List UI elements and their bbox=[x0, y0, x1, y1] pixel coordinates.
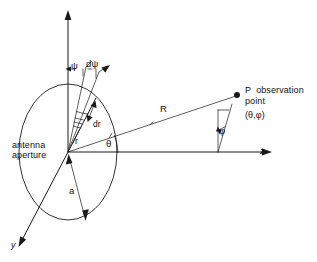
theta-label: θ bbox=[106, 139, 111, 150]
aperture-caption-line2: aperture bbox=[12, 150, 46, 160]
psi-label: ψ bbox=[71, 61, 78, 72]
r-label: r bbox=[75, 137, 78, 147]
vertical-axis bbox=[65, 10, 72, 152]
y-axis-label: y bbox=[11, 240, 16, 250]
aperture-caption-line1: antenna bbox=[12, 140, 45, 150]
d-psi-label: dψ bbox=[86, 59, 98, 70]
aperture-radius-label: a bbox=[69, 186, 74, 197]
observation-angles-label: (θ,φ) bbox=[245, 110, 265, 120]
antenna-aperture-figure: ψ dψ dr r θ φ a R z y antenna aperture P… bbox=[0, 0, 317, 262]
observation-caption-line2: point bbox=[245, 96, 265, 106]
dr-label: dr bbox=[93, 120, 101, 130]
observation-point-marker bbox=[234, 92, 240, 98]
y-axis bbox=[19, 98, 97, 247]
observation-caption-line1: P observation bbox=[245, 85, 304, 95]
z-axis bbox=[68, 149, 272, 156]
figure-canvas bbox=[0, 0, 317, 262]
z-axis-label: z bbox=[260, 146, 265, 156]
phi-label: φ bbox=[219, 126, 225, 137]
range-label: R bbox=[160, 104, 167, 115]
